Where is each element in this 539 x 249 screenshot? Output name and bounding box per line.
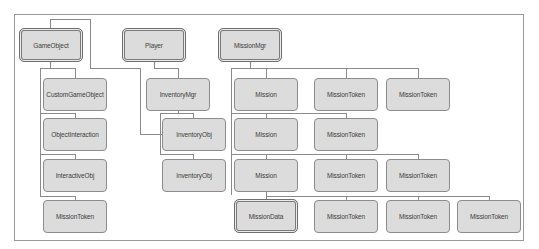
connector-line-horizontal bbox=[160, 154, 193, 155]
node-missiondata: MissionData bbox=[234, 199, 298, 233]
node-missiontoken-r4-1: MissionToken bbox=[314, 200, 378, 233]
node-missiontoken-left: MissionToken bbox=[43, 200, 107, 233]
node-mission-1: Mission bbox=[234, 78, 298, 111]
connector-line-vertical bbox=[178, 111, 179, 113]
node-missionmgr: MissionMgr bbox=[218, 28, 282, 62]
node-label: MissionToken bbox=[56, 213, 94, 220]
node-missiontoken-r4-2: MissionToken bbox=[386, 200, 450, 233]
node-missiontoken-r2-1: MissionToken bbox=[314, 118, 378, 151]
connector-line-horizontal bbox=[266, 196, 489, 197]
node-interactiveobj: InteractiveObj bbox=[43, 159, 107, 192]
node-missiontoken-r1-2: MissionToken bbox=[386, 78, 450, 111]
connector-line-vertical bbox=[75, 68, 76, 78]
node-label: InventoryObj bbox=[176, 131, 212, 138]
connector-line-horizontal bbox=[50, 19, 90, 20]
node-label: CustomGameObject bbox=[46, 91, 103, 98]
connector-line-vertical bbox=[50, 19, 51, 28]
node-label: MissionToken bbox=[399, 172, 437, 179]
node-label: MissionToken bbox=[399, 91, 437, 98]
node-inventoryobj-2: InventoryObj bbox=[162, 159, 226, 192]
node-label: InventoryMgr bbox=[160, 91, 197, 98]
node-inventorymgr: InventoryMgr bbox=[146, 78, 210, 111]
connector-line-horizontal bbox=[160, 113, 193, 114]
node-label: InteractiveObj bbox=[56, 172, 95, 179]
node-label: ObjectInteraction bbox=[51, 131, 98, 138]
connector-line-vertical bbox=[418, 68, 419, 78]
node-inventoryobj-1: InventoryObj bbox=[162, 118, 226, 151]
connector-line-horizontal bbox=[140, 134, 162, 135]
node-label: MissionToken bbox=[470, 213, 508, 220]
node-label: MissionToken bbox=[327, 131, 365, 138]
connector-line-horizontal bbox=[90, 68, 140, 69]
connector-line-vertical bbox=[266, 192, 267, 199]
node-label: GameObject bbox=[33, 42, 69, 49]
connector-line-horizontal bbox=[40, 154, 75, 155]
node-label: Mission bbox=[255, 91, 276, 98]
connector-line-horizontal bbox=[231, 68, 418, 69]
node-customgameobject: CustomGameObject bbox=[43, 78, 107, 111]
node-missiontoken-r3-1: MissionToken bbox=[314, 159, 378, 192]
class-hierarchy-diagram: GameObjectPlayerMissionMgrCustomGameObje… bbox=[0, 0, 539, 249]
node-label: MissionToken bbox=[327, 172, 365, 179]
node-label: MissionToken bbox=[399, 213, 437, 220]
connector-line-vertical bbox=[266, 68, 267, 78]
node-label: Player bbox=[145, 42, 163, 49]
connector-line-vertical bbox=[231, 68, 232, 195]
node-mission-2: Mission bbox=[234, 118, 298, 151]
node-objectinteraction: ObjectInteraction bbox=[43, 118, 107, 151]
connector-line-horizontal bbox=[40, 113, 75, 114]
node-label: MissionMgr bbox=[234, 42, 266, 49]
node-label: Mission bbox=[255, 172, 276, 179]
connector-line-vertical bbox=[154, 62, 155, 68]
node-player: Player bbox=[122, 28, 186, 62]
connector-line-vertical bbox=[346, 68, 347, 78]
connector-line-horizontal bbox=[231, 154, 418, 155]
node-missiontoken-r4-3: MissionToken bbox=[457, 200, 521, 233]
connector-line-vertical bbox=[40, 68, 41, 196]
node-gameobject: GameObject bbox=[19, 28, 83, 62]
connector-line-horizontal bbox=[231, 113, 346, 114]
node-label: MissionData bbox=[249, 213, 284, 220]
connector-line-vertical bbox=[140, 68, 141, 134]
connector-line-horizontal bbox=[40, 68, 75, 69]
connector-line-vertical bbox=[250, 62, 251, 68]
node-missiontoken-r1-1: MissionToken bbox=[314, 78, 378, 111]
node-label: MissionToken bbox=[327, 91, 365, 98]
node-mission-3: Mission bbox=[234, 159, 298, 192]
connector-line-vertical bbox=[160, 113, 161, 154]
connector-line-vertical bbox=[50, 62, 51, 68]
connector-line-vertical bbox=[178, 68, 179, 78]
connector-line-horizontal bbox=[40, 196, 75, 197]
node-label: InventoryObj bbox=[176, 172, 212, 179]
connector-line-vertical bbox=[90, 19, 91, 68]
node-missiontoken-r3-2: MissionToken bbox=[386, 159, 450, 192]
connector-line-horizontal bbox=[154, 68, 178, 69]
node-label: Mission bbox=[255, 131, 276, 138]
node-label: MissionToken bbox=[327, 213, 365, 220]
